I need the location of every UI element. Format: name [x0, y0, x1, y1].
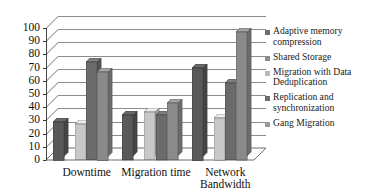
legend-item[interactable]: Adaptive memory compression	[265, 26, 373, 47]
bar	[53, 122, 64, 160]
legend-item[interactable]: Shared Storage	[265, 52, 373, 63]
bar-3d-shape	[192, 64, 208, 161]
legend-color-swatch-icon	[265, 30, 270, 35]
bar	[156, 115, 167, 160]
bar	[144, 112, 155, 160]
bar	[97, 72, 108, 160]
legend-color-swatch-icon	[265, 96, 270, 101]
bar	[75, 124, 86, 160]
chart-legend: Adaptive memory compressionShared Storag…	[265, 26, 373, 133]
legend-item[interactable]: Gang Migration	[265, 118, 373, 129]
legend-item-label: Adaptive memory compression	[273, 26, 373, 47]
bar	[214, 118, 225, 160]
legend-item-label: Migration with Data Deduplication	[273, 67, 373, 88]
bar	[236, 32, 247, 160]
bar-3d-shape	[122, 111, 138, 161]
legend-color-swatch-icon	[265, 56, 270, 61]
legend-color-swatch-icon	[265, 71, 270, 76]
bar-chart: 1009080706050403020100 DowntimeMigration…	[0, 0, 374, 194]
bar-3d-shape	[236, 28, 252, 161]
legend-item-label: Shared Storage	[273, 52, 331, 63]
legend-item-label: Gang Migration	[273, 118, 335, 129]
legend-item[interactable]: Replication and synchronization	[265, 92, 373, 113]
bar-3d-shape	[97, 68, 113, 161]
x-axis-category-label: Network Bandwidth	[187, 166, 264, 190]
bar-3d-shape	[167, 99, 183, 161]
legend-item-label: Replication and synchronization	[273, 92, 373, 113]
bar	[122, 115, 133, 160]
bar-3d-shape	[53, 118, 69, 161]
x-axis-category-label: Migration time	[117, 166, 194, 178]
y-axis-line	[46, 28, 47, 160]
bar	[225, 83, 236, 160]
legend-color-swatch-icon	[265, 122, 270, 127]
bar	[86, 62, 97, 160]
legend-item[interactable]: Migration with Data Deduplication	[265, 67, 373, 88]
x-axis-category-label: Downtime	[48, 166, 125, 178]
bar	[167, 103, 178, 160]
bar	[192, 68, 203, 160]
